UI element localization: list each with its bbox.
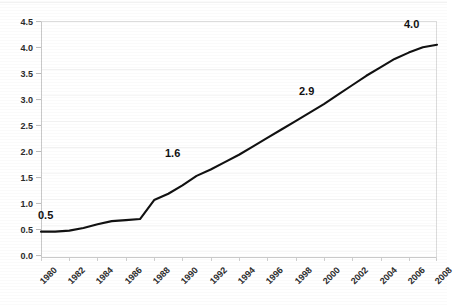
- data-label-1991: 1.6: [165, 147, 180, 159]
- data-label-2008: 4.0: [404, 18, 419, 30]
- data-label-1980: 0.5: [38, 209, 53, 221]
- series-line-value: [41, 45, 437, 232]
- data-label-2000: 2.9: [299, 85, 314, 97]
